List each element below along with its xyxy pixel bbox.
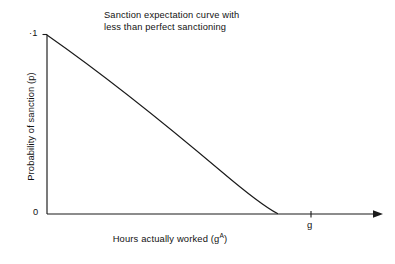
plot-area xyxy=(0,0,395,264)
y-tick-label-0-1: ·1 xyxy=(29,28,37,38)
x-axis-arrow-icon xyxy=(373,210,383,217)
x-axis-title-suffix: ) xyxy=(224,233,227,244)
chart-figure: Sanction expectation curve with less tha… xyxy=(0,0,395,264)
y-axis-title: Probability of sanction (p) xyxy=(25,42,36,212)
x-axis-title: Hours actually worked (gA) xyxy=(60,233,280,244)
x-tick-label-g: g xyxy=(307,219,312,230)
sanction-expectation-curve xyxy=(47,35,277,213)
x-axis-title-main: Hours actually worked (g xyxy=(113,233,220,244)
